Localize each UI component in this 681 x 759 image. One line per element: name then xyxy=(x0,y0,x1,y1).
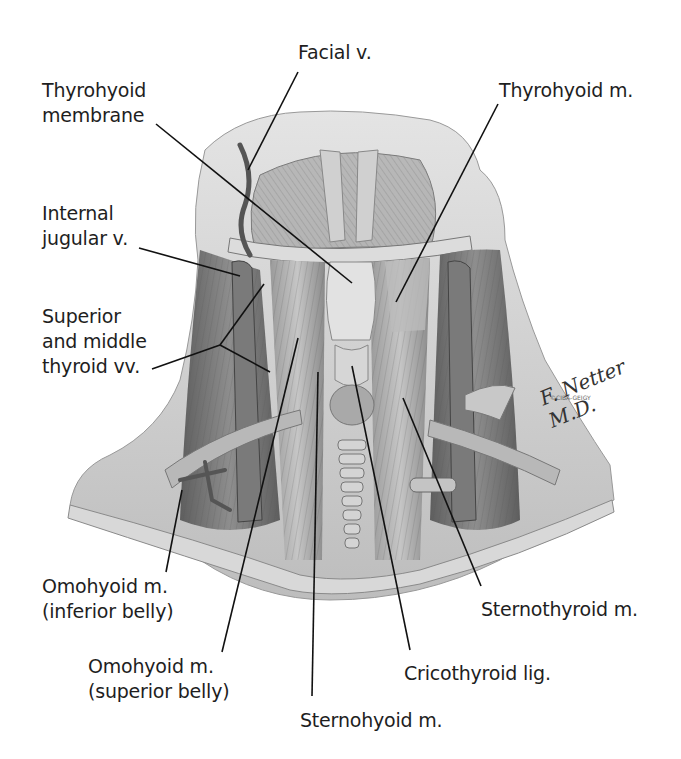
artist-signature: F. Netter M.D. ©CIBA-GEIGY xyxy=(540,360,681,408)
label-sternohyoid-m: Sternohyoid m. xyxy=(300,708,442,733)
label-thyrohyoid-membrane: Thyrohyoid membrane xyxy=(42,78,146,128)
thyroid-cartilage xyxy=(326,262,375,340)
label-internal-jugular-v: Internal jugular v. xyxy=(42,201,128,251)
thyroid-isthmus xyxy=(330,385,374,425)
label-superior-middle-thyroid-vv: Superior and middle thyroid vv. xyxy=(42,304,147,379)
intermediate-tendon xyxy=(410,478,456,492)
label-facial-v: Facial v. xyxy=(298,40,372,65)
thyrohyoid-right xyxy=(385,258,430,332)
label-omohyoid-inferior-belly: Omohyoid m. (inferior belly) xyxy=(42,574,173,624)
anatomy-figure: Facial v. Thyrohyoid membrane Thyrohyoid… xyxy=(0,0,681,759)
label-thyrohyoid-m: Thyrohyoid m. xyxy=(499,78,633,103)
label-sternothyroid-m: Sternothyroid m. xyxy=(481,597,638,622)
label-cricothyroid-lig: Cricothyroid lig. xyxy=(404,661,551,686)
label-omohyoid-superior-belly: Omohyoid m. (superior belly) xyxy=(88,654,229,704)
cricothyroid-ligament xyxy=(335,345,368,386)
copyright-text: ©CIBA-GEIGY xyxy=(550,394,591,401)
